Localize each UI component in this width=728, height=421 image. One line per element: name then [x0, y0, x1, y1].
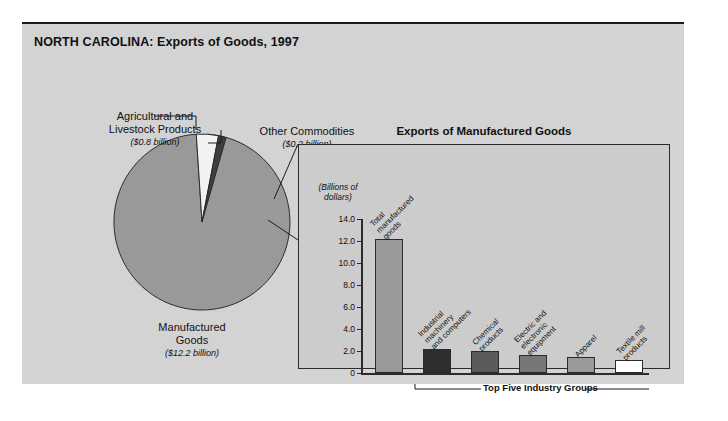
y-tick-mark	[357, 373, 361, 374]
y-axis-label-line1: (Billions of	[318, 182, 357, 192]
pie-label-agricultural: Agricultural and Livestock Products ($0.…	[80, 110, 230, 148]
bar	[567, 357, 596, 374]
bar-category-label: Chemicalproducts	[471, 318, 507, 354]
x-axis-line	[361, 373, 649, 375]
bar-category-label: Industrialmachineryand computers	[417, 295, 473, 351]
bar-category-label: Electric andelectronicequipment	[513, 310, 562, 359]
y-tick-label: 8.0	[321, 280, 355, 290]
bar	[375, 239, 404, 373]
bar-chart-panel: (Billions of dollars) 14.012.010.08.06.0…	[298, 144, 670, 369]
bar-panel-title: Exports of Manufactured Goods	[298, 125, 670, 137]
y-tick-mark	[357, 307, 361, 308]
pie-label-manufactured-amount: ($12.2 billion)	[127, 348, 257, 359]
y-tick-label: 2.0	[321, 346, 355, 356]
y-tick-mark	[357, 219, 361, 220]
bar	[423, 349, 452, 373]
pie-chart-svg	[112, 132, 292, 312]
industry-group-bracket-label: Top Five Industry Groups	[483, 382, 583, 393]
pie-label-agricultural-amount: ($0.8 billion)	[80, 137, 230, 148]
y-tick-mark	[357, 285, 361, 286]
pie-label-agricultural-line1: Agricultural and	[80, 110, 230, 123]
y-axis-label: (Billions of dollars)	[309, 183, 367, 203]
y-tick-mark	[357, 351, 361, 352]
y-axis-label-line2: dollars)	[324, 192, 352, 202]
y-tick-mark	[357, 329, 361, 330]
y-tick-label: 0	[321, 368, 355, 378]
figure-container: NORTH CAROLINA: Exports of Goods, 1997 A…	[22, 22, 684, 384]
bar	[519, 355, 548, 373]
y-tick-label: 12.0	[321, 236, 355, 246]
bar-plot-area: 14.012.010.08.06.04.02.00 Totalmanufactu…	[361, 219, 649, 373]
pie-label-manufactured-line2: Goods	[127, 334, 257, 347]
pie-chart	[112, 132, 292, 312]
y-tick-mark	[357, 241, 361, 242]
pie-label-agricultural-line2: Livestock Products	[80, 123, 230, 136]
bar	[471, 351, 500, 373]
y-tick-label: 4.0	[321, 324, 355, 334]
y-tick-label: 6.0	[321, 302, 355, 312]
y-tick-label: 14.0	[321, 214, 355, 224]
y-tick-label: 10.0	[321, 258, 355, 268]
pie-label-manufactured: Manufactured Goods ($12.2 billion)	[127, 321, 257, 359]
bar-category-label: Totalmanufacturedgoods	[369, 188, 423, 242]
page-title: NORTH CAROLINA: Exports of Goods, 1997	[34, 35, 299, 49]
bar-category-label: Textile millproducts	[615, 324, 654, 363]
y-tick-mark	[357, 263, 361, 264]
pie-label-manufactured-line1: Manufactured	[127, 321, 257, 334]
y-axis-line	[361, 219, 363, 373]
